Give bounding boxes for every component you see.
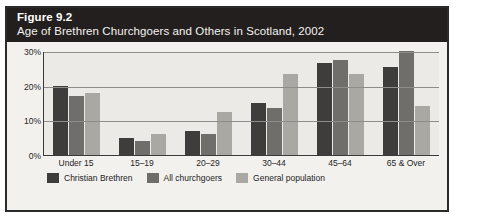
legend-item: All churchgoers	[147, 173, 223, 183]
bar	[317, 63, 332, 155]
bar	[135, 141, 150, 155]
legend-item: General population	[236, 173, 325, 183]
y-axis-tick-label: 10%	[9, 116, 41, 126]
chart-legend: Christian BrethrenAll churchgoersGeneral…	[47, 173, 325, 183]
bar	[251, 103, 266, 155]
bar-group	[317, 52, 364, 155]
legend-label: All churchgoers	[164, 173, 223, 183]
figure-caption: Age of Brethren Churchgoers and Others i…	[17, 24, 447, 38]
chart-area: 0%10%20%30% Under 1515–1920–2930–4445–64…	[7, 42, 447, 210]
bar-group	[119, 52, 166, 155]
bar-groups	[44, 52, 439, 155]
bar	[267, 108, 282, 155]
gridline	[44, 121, 439, 122]
legend-label: Christian Brethren	[64, 173, 133, 183]
figure-number: Figure 9.2	[17, 11, 447, 24]
y-axis-tick-label: 20%	[9, 82, 41, 92]
bar-group	[251, 52, 298, 155]
plot-area	[43, 52, 439, 156]
x-axis-labels: Under 1515–1920–2930–4445–6465 & Over	[43, 158, 439, 168]
y-axis-tick-label: 0%	[9, 151, 41, 161]
bar	[333, 60, 348, 155]
legend-swatch-icon	[47, 173, 59, 183]
bar	[415, 106, 430, 155]
bar	[85, 93, 100, 155]
x-axis-tick-label: 45–64	[307, 158, 373, 168]
gridline	[44, 52, 439, 53]
bar	[119, 138, 134, 155]
legend-swatch-icon	[236, 173, 248, 183]
bar-group	[185, 52, 232, 155]
x-axis-tick-label: Under 15	[43, 158, 109, 168]
figure-title-band: Figure 9.2 Age of Brethren Churchgoers a…	[7, 8, 447, 42]
x-axis-tick-label: 65 & Over	[373, 158, 439, 168]
bar	[399, 51, 414, 155]
bar	[383, 67, 398, 155]
bar	[151, 134, 166, 155]
bar	[69, 96, 84, 155]
legend-swatch-icon	[147, 173, 159, 183]
legend-label: General population	[253, 173, 325, 183]
legend-item: Christian Brethren	[47, 173, 133, 183]
x-axis-tick-label: 20–29	[175, 158, 241, 168]
y-axis: 0%10%20%30%	[7, 52, 41, 156]
x-axis-tick-label: 15–19	[109, 158, 175, 168]
bar	[201, 134, 216, 155]
bar-group	[53, 52, 100, 155]
bar	[185, 131, 200, 155]
bar-group	[383, 52, 430, 155]
bar	[217, 112, 232, 155]
gridline	[44, 87, 439, 88]
x-axis-tick-label: 30–44	[241, 158, 307, 168]
y-axis-tick-label: 30%	[9, 47, 41, 57]
figure-page: Figure 9.2 Age of Brethren Churchgoers a…	[0, 0, 489, 220]
bar	[53, 86, 68, 155]
